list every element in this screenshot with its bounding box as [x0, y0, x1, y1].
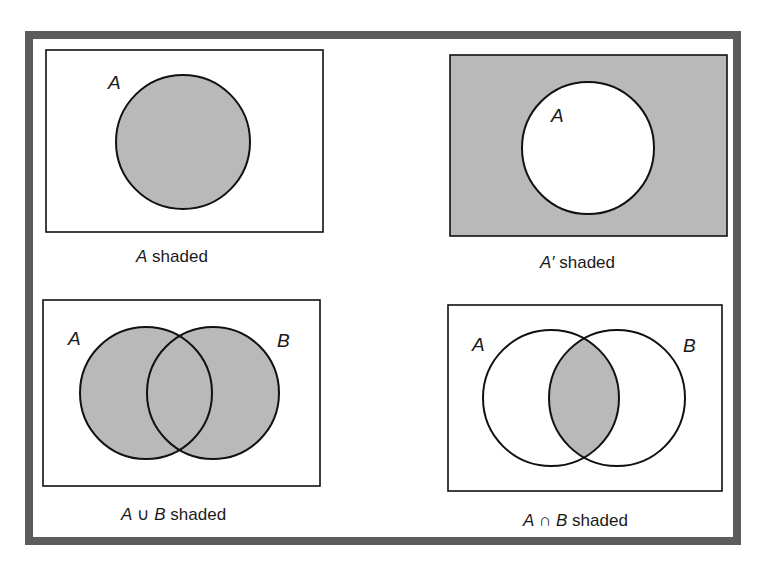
caption-a-intersect-b-shaded: A ∩ B shaded: [522, 511, 628, 530]
panel-a-shaded: A A shaded: [46, 50, 323, 266]
set-a-circle: [116, 75, 250, 209]
set-a-label: A: [67, 328, 81, 349]
set-a-label: A: [107, 72, 121, 93]
venn-diagram-figure: A A shaded A A′ shaded A B A ∪ B shaded …: [0, 0, 769, 567]
caption-a-complement-shaded: A′ shaded: [539, 253, 615, 272]
panel-a-intersect-b-shaded: A B A ∩ B shaded: [448, 305, 722, 530]
set-b-label: B: [683, 335, 696, 356]
caption-a-union-b-shaded: A ∪ B shaded: [120, 505, 226, 524]
set-b-label: B: [277, 330, 290, 351]
set-a-label: A: [471, 334, 485, 355]
panel-a-union-b-shaded: A B A ∪ B shaded: [43, 300, 320, 524]
panel-a-complement-shaded: A A′ shaded: [450, 55, 727, 272]
set-a-label: A: [550, 105, 564, 126]
set-a-circle: [522, 82, 654, 214]
caption-a-shaded: A shaded: [135, 247, 208, 266]
